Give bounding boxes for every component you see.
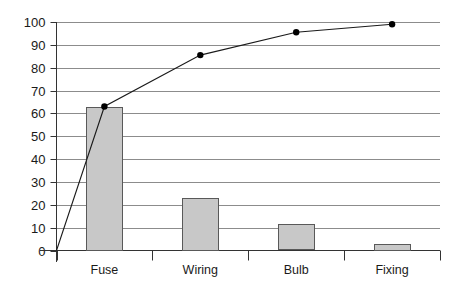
y-tick-label-20: 20 <box>31 198 45 213</box>
chart-background <box>0 0 462 286</box>
y-tick-label-10: 10 <box>31 221 45 236</box>
category-label-fixing: Fixing <box>375 263 408 277</box>
bar-fuse <box>87 108 123 251</box>
category-label-wiring: Wiring <box>183 263 218 277</box>
chart-canvas: 0102030405060708090100 FuseWiringBulbFix… <box>0 0 462 286</box>
y-tick-label-60: 60 <box>31 106 45 121</box>
bar-bulb <box>279 225 315 250</box>
cumulative-point-fixing <box>389 21 395 27</box>
category-label-fuse: Fuse <box>91 263 119 277</box>
y-tick-label-0: 0 <box>38 244 45 259</box>
y-tick-label-30: 30 <box>31 175 45 190</box>
cumulative-point-fuse <box>101 103 107 109</box>
category-label-bulb: Bulb <box>284 263 309 277</box>
y-tick-label-40: 40 <box>31 152 45 167</box>
bar-wiring <box>183 199 219 251</box>
cumulative-point-wiring <box>197 52 203 58</box>
y-tick-label-50: 50 <box>31 129 45 144</box>
y-tick-label-100: 100 <box>24 15 46 30</box>
y-tick-label-90: 90 <box>31 38 45 53</box>
pareto-chart: 0102030405060708090100 FuseWiringBulbFix… <box>0 0 462 286</box>
y-tick-label-70: 70 <box>31 84 45 99</box>
y-tick-label-80: 80 <box>31 61 45 76</box>
cumulative-point-bulb <box>293 29 299 35</box>
bar-fixing <box>375 245 411 251</box>
